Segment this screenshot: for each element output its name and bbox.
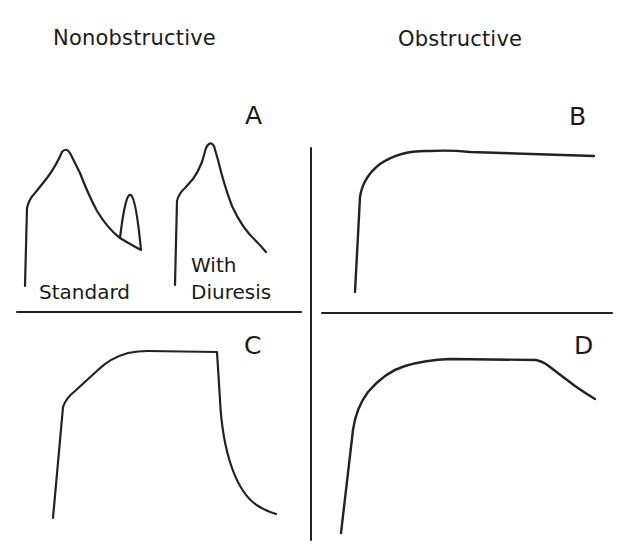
curve-a-standard [25,150,141,286]
curve-b [355,151,594,292]
curve-d [341,359,595,533]
curve-c [53,351,276,518]
curve-a-diuresis [175,143,266,285]
renogram-diagram [0,0,623,553]
